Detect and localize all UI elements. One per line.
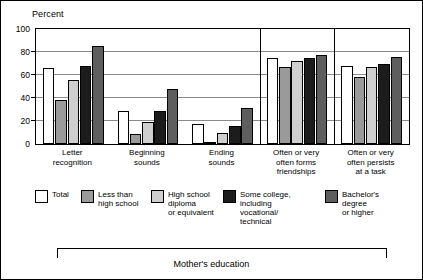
bar [80,66,92,144]
y-axis-tick-label: 40 [6,94,30,102]
bar [167,89,179,144]
chart-figure: Percent 020406080100 Letter recognitionB… [0,0,423,280]
legend-swatch-icon [223,190,236,203]
y-axis-tick-label: 60 [6,71,30,79]
bar [279,67,291,144]
legend-swatch-icon [325,190,338,203]
y-axis-tick-label: 0 [6,140,30,148]
x-axis-category-label: Often or very often persists at a task [325,148,416,177]
bar [341,66,353,144]
legend-label: Bachelor's degree or higher [342,190,379,217]
legend-label: Less than high school [98,190,138,208]
bar [378,64,390,145]
bar [291,61,303,144]
bar [241,108,253,144]
bar [118,111,130,144]
y-axis-title: Percent [32,9,64,19]
plot-area [35,28,410,145]
bar [92,46,104,144]
legend-item[interactable]: Some college, including vocational/ tech… [223,190,291,226]
x-axis-title: Mother's education [1,259,422,269]
legend-item[interactable]: Total [35,190,69,203]
legend-label: Total [52,190,69,199]
bar [354,77,366,144]
legend-swatch-icon [35,190,48,203]
bar [55,100,67,144]
y-axis-tick-label: 80 [6,48,30,56]
bar [366,67,378,144]
bar [68,80,80,144]
bar [316,55,328,144]
bar [192,124,204,144]
bar [204,142,216,144]
bar [130,134,142,144]
bar [304,58,316,144]
y-axis-tick-label: 100 [6,25,30,33]
bar [217,133,229,145]
bar [229,126,241,144]
y-axis-tick-label: 20 [6,117,30,125]
x-axis-bracket [57,248,387,258]
legend-item[interactable]: Bachelor's degree or higher [325,190,379,217]
bar [154,111,166,144]
bar [267,58,279,144]
legend-swatch-icon [151,190,164,203]
legend-swatch-icon [81,190,94,203]
group-separator [260,29,261,144]
legend-item[interactable]: High school diploma or equivalent [151,190,214,217]
group-separator [334,29,335,144]
bar [391,57,403,144]
legend-item[interactable]: Less than high school [81,190,138,208]
legend-label: Some college, including vocational/ tech… [240,190,291,226]
bar [43,68,55,144]
bar [142,122,154,144]
legend-label: High school diploma or equivalent [168,190,214,217]
